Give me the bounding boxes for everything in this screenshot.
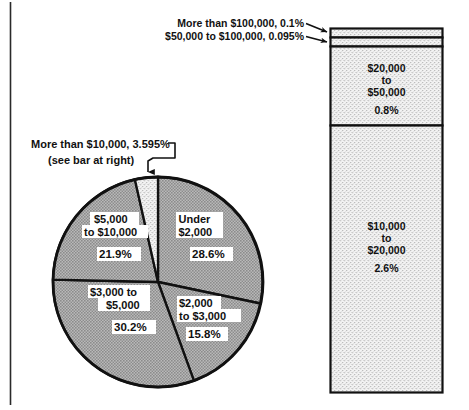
bar-callout-leader-2 xyxy=(306,37,327,43)
bar-label-10000-to-20000-line3: $20,000 xyxy=(368,244,406,256)
pie-label-under-2000-line1: Under xyxy=(179,213,212,225)
bar-callout-more-than-100000: More than $100,000, 0.1% xyxy=(177,17,304,29)
pie-value-under-2000: 28.6% xyxy=(192,248,225,260)
bar-label-10000-to-20000-line2: to xyxy=(382,232,392,244)
bar-callout-leader-1 xyxy=(306,24,327,33)
companion-bar: $20,000 to $50,000 0.8% $10,000 to $20,0… xyxy=(331,29,443,393)
pie-label-2000-to-3000-line2: to $3,000 xyxy=(179,310,226,322)
bar-segment-10000-to-20000 xyxy=(331,126,443,393)
bar-segment-50000-to-100000 xyxy=(331,38,443,47)
bar-value-10000-to-20000: 2.6% xyxy=(375,262,400,274)
pie-value-5000-to-10000: 21.9% xyxy=(99,248,132,260)
figure-canvas: $20,000 to $50,000 0.8% $10,000 to $20,0… xyxy=(0,0,469,410)
pie-callout-line2: (see bar at right) xyxy=(48,154,135,166)
pie-value-3000-to-5000: 30.2% xyxy=(114,321,147,333)
pie-label-3000-to-5000-line1: $3,000 to xyxy=(90,286,137,298)
bar-value-20000-to-50000: 0.8% xyxy=(375,104,400,116)
bar-label-20000-to-50000-line3: $50,000 xyxy=(368,86,406,98)
bar-label-20000-to-50000-line1: $20,000 xyxy=(368,62,406,74)
bar-callouts: More than $100,000, 0.1% $50,000 to $100… xyxy=(165,17,327,42)
bar-label-10000-to-20000-line1: $10,000 xyxy=(368,220,406,232)
bar-label-20000-to-50000-line2: to xyxy=(382,74,392,86)
pie-value-2000-to-3000: 15.8% xyxy=(188,328,221,340)
pie-label-5000-to-10000-line2: to $10,000 xyxy=(84,226,137,238)
pie-callout-line1: More than $10,000, 3.595% xyxy=(31,138,170,150)
figure-svg: $20,000 to $50,000 0.8% $10,000 to $20,0… xyxy=(0,0,469,410)
bar-segment-more-than-100000 xyxy=(331,29,443,38)
pie-label-2000-to-3000-line1: $2,000 xyxy=(179,297,213,309)
pie-label-5000-to-10000-line1: $5,000 xyxy=(94,213,128,225)
pie-chart xyxy=(53,177,263,387)
pie-label-under-2000-line2: $2,000 xyxy=(179,226,213,238)
pie-label-3000-to-5000-line2: $5,000 xyxy=(106,299,140,311)
pie-callout: More than $10,000, 3.595% (see bar at ri… xyxy=(31,138,175,172)
bar-callout-50000-to-100000: $50,000 to $100,000, 0.095% xyxy=(165,30,305,42)
